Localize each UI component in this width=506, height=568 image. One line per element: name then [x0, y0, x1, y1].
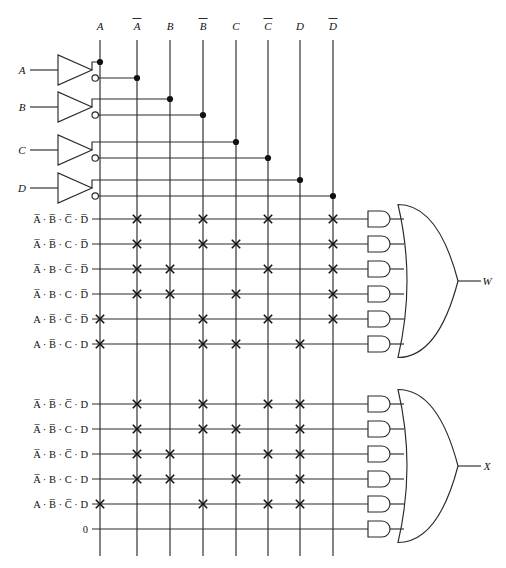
or-gate-X[interactable] [398, 390, 458, 543]
input-label-C: C [18, 144, 26, 156]
product-term-label-5: A · B̅ · C · D [33, 339, 88, 350]
or-gates: WX [390, 205, 492, 543]
product-term-label-3: A̅ · B · C · D̅ [33, 289, 88, 300]
junction-dot-nC [265, 155, 271, 161]
and-gate-6[interactable] [368, 396, 390, 412]
pla-diagram-root: AABBCCDDABCDA̅ · B̅ · C̅ · D̅A̅ · B̅ · C… [0, 0, 506, 568]
product-term-label-6: A̅ · B̅ · C̅ · D [33, 399, 88, 410]
junction-dot-nA [134, 75, 140, 81]
buffer-triangle-A [58, 55, 92, 85]
buffer-triangle-C [58, 135, 92, 165]
and-gate-7[interactable] [368, 421, 390, 437]
input-label-D: D [17, 182, 26, 194]
column-header-B: B [167, 20, 174, 32]
input-buffers: ABCD [17, 55, 336, 203]
and-gate-8[interactable] [368, 446, 390, 462]
junction-dot-B [167, 96, 173, 102]
and-gate-2[interactable] [368, 261, 390, 277]
and-gate-1[interactable] [368, 236, 390, 252]
column-header-A: A [96, 20, 104, 32]
column-header-nA: A [133, 20, 141, 32]
buffer-triangle-D [58, 173, 92, 203]
product-term-label-9: A̅ · B · C · D [33, 474, 88, 485]
inverter-bubble-D [92, 193, 98, 199]
column-headers: AABBCCDD [96, 19, 338, 33]
junction-dot-nB [200, 112, 206, 118]
and-gates [368, 211, 390, 537]
or-gate-W[interactable] [398, 205, 458, 358]
column-header-D: D [295, 20, 304, 32]
and-gate-11[interactable] [368, 521, 390, 537]
product-term-label-10: A · B̅ · C̅ · D [33, 499, 88, 510]
inverter-bubble-B [92, 112, 98, 118]
and-gate-10[interactable] [368, 496, 390, 512]
true-output-wire-D [92, 180, 300, 188]
junction-dot-nD [330, 193, 336, 199]
product-term-label-2: A̅ · B · C̅ · D̅ [33, 264, 88, 275]
and-gate-9[interactable] [368, 471, 390, 487]
buffer-triangle-B [58, 92, 92, 122]
crosspoints [96, 215, 337, 508]
product-term-label-8: A̅ · B · C̅ · D [33, 449, 88, 460]
inverter-bubble-A [92, 75, 98, 81]
output-label-W: W [482, 275, 492, 287]
product-term-label-7: A̅ · B̅ · C · D [33, 424, 88, 435]
product-term-label-1: A̅ · B̅ · C · D̅ [33, 239, 88, 250]
true-output-wire-B [92, 99, 170, 107]
junction-dot-A [97, 59, 103, 65]
pla-schematic: AABBCCDDABCDA̅ · B̅ · C̅ · D̅A̅ · B̅ · C… [0, 0, 506, 568]
true-output-wire-C [92, 142, 236, 150]
and-gate-5[interactable] [368, 336, 390, 352]
column-header-C: C [232, 20, 240, 32]
product-term-label-0: A̅ · B̅ · C̅ · D̅ [33, 214, 88, 225]
product-term-labels: A̅ · B̅ · C̅ · D̅A̅ · B̅ · C · D̅A̅ · B … [33, 214, 88, 535]
inverter-bubble-C [92, 155, 98, 161]
column-header-nD: D [328, 20, 337, 32]
product-term-label-11: 0 [83, 524, 88, 535]
column-header-nC: C [264, 20, 272, 32]
and-gate-4[interactable] [368, 311, 390, 327]
input-label-A: A [18, 64, 26, 76]
and-gate-0[interactable] [368, 211, 390, 227]
column-header-nB: B [200, 20, 207, 32]
product-term-label-4: A · B̅ · C̅ · D̅ [33, 314, 88, 325]
junction-dot-D [297, 177, 303, 183]
and-gate-3[interactable] [368, 286, 390, 302]
output-label-X: X [483, 460, 492, 472]
input-label-B: B [19, 101, 26, 113]
junction-dot-C [233, 139, 239, 145]
